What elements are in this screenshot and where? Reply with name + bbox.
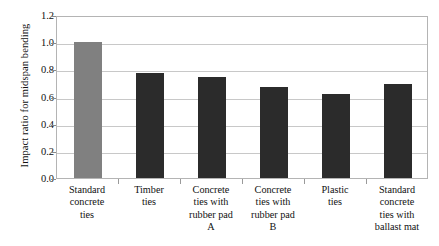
y-axis-tick-label: 1.2 — [10, 11, 54, 21]
bar — [136, 73, 164, 178]
gridline — [57, 153, 427, 154]
x-axis-category-label: Standardconcreteties withballast mat — [366, 184, 428, 233]
x-axis-category-label-line: ties — [304, 196, 366, 208]
x-axis-category-label: Concreteties withrubber padA — [180, 184, 242, 233]
x-axis-category-label: Timberties — [118, 184, 180, 209]
bar — [260, 87, 288, 178]
x-axis-category-label-line: ballast mat — [366, 221, 428, 233]
x-axis-category-label-line: concrete — [366, 196, 428, 208]
x-axis-category-label-line: Standard — [56, 184, 118, 196]
y-axis-tick-label: 0.4 — [10, 120, 54, 130]
x-axis-category-label-line: Concrete — [242, 184, 304, 196]
y-axis-tick-label: 1.0 — [10, 38, 54, 48]
bar — [74, 42, 102, 178]
x-axis-category-label-line: Plastic — [304, 184, 366, 196]
x-axis-category-label-line: A — [180, 221, 242, 233]
y-axis-tick-label: 0.8 — [10, 65, 54, 75]
x-axis-category-label: Plasticties — [304, 184, 366, 209]
x-axis-category-label-line: Timber — [118, 184, 180, 196]
bar — [384, 84, 412, 178]
bar-chart: Impact ratio for midspan bending 1.21.00… — [0, 0, 439, 246]
x-axis-category-label-line: Standard — [366, 184, 428, 196]
gridline — [57, 126, 427, 127]
x-axis-category-label: Standardconcreteties — [56, 184, 118, 221]
x-axis-category-label-line: ties — [118, 196, 180, 208]
x-axis-category-label-line: B — [242, 221, 304, 233]
gridline — [57, 71, 427, 72]
x-axis-category-label-line: concrete — [56, 196, 118, 208]
y-axis-tick-label: 0.6 — [10, 93, 54, 103]
x-axis-category-label-line: ties with — [242, 196, 304, 208]
x-axis-category-label-line: ties with — [366, 209, 428, 221]
x-axis-category-label: Concreteties withrubber padB — [242, 184, 304, 233]
x-axis-category-label-line: rubber pad — [180, 209, 242, 221]
gridline — [57, 44, 427, 45]
x-axis-category-label-line: Concrete — [180, 184, 242, 196]
bar — [198, 77, 226, 178]
gridline — [57, 99, 427, 100]
y-axis-tick-label: 0.0 — [10, 174, 54, 184]
bar — [322, 94, 350, 178]
x-axis-category-label-line: ties — [56, 209, 118, 221]
x-axis-category-label-line: ties with — [180, 196, 242, 208]
y-axis-tick-mark — [51, 179, 56, 180]
plot-area — [56, 16, 428, 179]
x-axis-category-label-line: rubber pad — [242, 209, 304, 221]
y-axis-tick-label: 0.2 — [10, 147, 54, 157]
